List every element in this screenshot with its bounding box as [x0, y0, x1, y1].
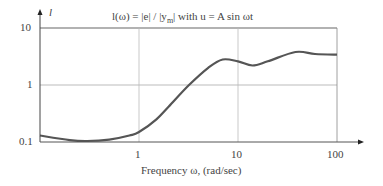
x-tick-1: 1 [135, 148, 141, 160]
y-axis-label: l [49, 6, 52, 18]
y-tick-1: 1 [27, 78, 33, 90]
x-axis-label: Frequency ω, (rad/sec) [141, 164, 241, 176]
x-tick-10: 10 [231, 148, 242, 160]
y-tick-0.1: 0.1 [19, 135, 33, 147]
y-tick-10: 10 [20, 21, 31, 33]
x-tick-100: 100 [327, 148, 344, 160]
data-line [40, 52, 337, 141]
chart-title: l(ω) = |e| / |ym| with u = A sin ωt [112, 10, 253, 25]
chart-canvas [0, 0, 383, 186]
axes [38, 9, 365, 145]
